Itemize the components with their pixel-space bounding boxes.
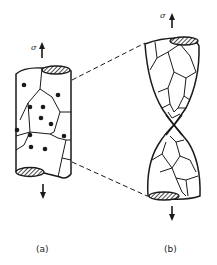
bottom-fracture-face-b xyxy=(149,192,179,200)
rupture-diagram: σ xyxy=(0,0,217,265)
top-fracture-face xyxy=(42,66,70,74)
sigma-label-a: σ xyxy=(31,43,37,52)
connector-lines xyxy=(72,43,147,196)
panel-a: σ xyxy=(15,42,71,254)
panel-b: σ xyxy=(145,11,200,254)
stress-arrow-up-icon xyxy=(169,13,175,28)
sigma-label-b: σ xyxy=(160,11,166,20)
top-fracture-face-b xyxy=(170,37,198,45)
stress-arrow-down-icon xyxy=(40,184,46,199)
lower-neck xyxy=(148,125,200,199)
stress-arrow-up-icon xyxy=(39,42,45,58)
stress-arrow-down-icon xyxy=(169,206,175,221)
bottom-fracture-face xyxy=(16,168,44,177)
panel-label-a: (a) xyxy=(36,244,49,254)
upper-neck xyxy=(145,38,199,125)
panel-label-b: (b) xyxy=(164,244,177,254)
